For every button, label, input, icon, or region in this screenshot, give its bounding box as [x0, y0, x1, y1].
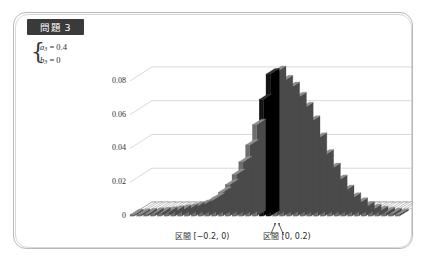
y-axis-tick-1: 0.02: [112, 177, 126, 186]
equation-line-b: b3 = 0: [40, 55, 61, 65]
equation-block: { a3 = 0.4 b3 = 0: [31, 41, 101, 69]
equation-line-a: a3 = 0.4: [40, 42, 67, 52]
histogram-plot: 0 0.02 0.04 0.06 0.08: [100, 50, 412, 225]
y-axis-tick-2: 0.04: [112, 143, 126, 152]
problem-badge: 問題 3: [27, 19, 84, 35]
y-axis-tick-3: 0.06: [112, 110, 126, 119]
interval-label-right: 区間 [0, 0.2): [263, 230, 311, 241]
y-axis-tick-0: 0: [122, 211, 126, 220]
equation-b-value: = 0: [47, 55, 60, 65]
interval-label-left: 区間 [−0.2, 0): [175, 230, 229, 241]
y-axis-tick-4: 0.08: [112, 76, 126, 85]
equation-a-value: = 0.4: [47, 42, 67, 52]
slide-canvas: 問題 3 { a3 = 0.4 b3 = 0 0 0.02 0.04 0.06 …: [0, 0, 429, 268]
histogram-svg: [100, 50, 412, 235]
problem-badge-label: 問題 3: [27, 19, 84, 35]
